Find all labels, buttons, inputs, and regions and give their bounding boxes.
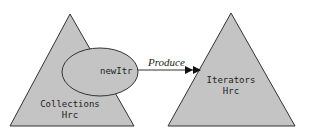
collections-label-line1: Collections — [35, 99, 105, 110]
collections-label: Collections Hrc — [35, 99, 105, 121]
iterators-label: Iterators Hrc — [196, 75, 266, 97]
iterators-label-line2: Hrc — [196, 86, 266, 97]
collections-label-line2: Hrc — [35, 110, 105, 121]
arrowhead-icon — [185, 66, 193, 74]
iterators-label-line1: Iterators — [196, 75, 266, 86]
produce-edge-label: Produce — [148, 56, 185, 68]
